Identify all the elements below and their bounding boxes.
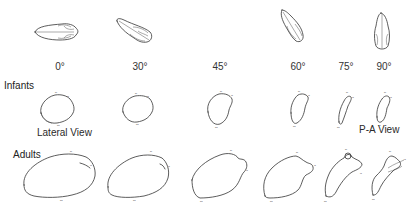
svg-text:br: br xyxy=(346,91,348,94)
svg-text:ba: ba xyxy=(60,199,63,202)
skull-figure: brlaba brlaba brlaba brlaba brlaba brlab… xyxy=(0,0,420,210)
svg-text:ba: ba xyxy=(372,198,375,201)
svg-text:ba: ba xyxy=(136,123,139,126)
svg-text:ba: ba xyxy=(215,126,218,129)
angle-label-0: 0° xyxy=(55,61,65,72)
svg-text:br: br xyxy=(150,150,152,153)
infants-row-label: Infants xyxy=(4,80,34,91)
infant-lateral-30deg: brlaba xyxy=(123,92,153,126)
svg-text:br: br xyxy=(298,90,300,93)
skull-top-90deg xyxy=(375,13,390,49)
angle-label-75: 75° xyxy=(338,61,353,72)
svg-text:br: br xyxy=(220,90,222,93)
svg-text:br: br xyxy=(389,150,391,153)
infant-lateral-45deg: brlaba xyxy=(208,90,234,129)
skull-top-60deg xyxy=(281,10,303,42)
svg-text:la: la xyxy=(246,169,249,172)
svg-text:la: la xyxy=(352,96,355,99)
adults-row-label: Adults xyxy=(13,149,41,160)
svg-text:ba: ba xyxy=(133,199,136,202)
svg-text:ba: ba xyxy=(200,200,203,203)
svg-text:ba: ba xyxy=(324,200,327,203)
svg-text:br: br xyxy=(345,148,347,151)
svg-text:ba: ba xyxy=(270,200,273,203)
svg-text:ba: ba xyxy=(337,126,340,129)
svg-text:la: la xyxy=(308,94,311,97)
infant-pa-90deg: brlaba xyxy=(377,91,393,127)
svg-text:la: la xyxy=(404,158,407,161)
infant-lateral-60deg: brlaba xyxy=(291,90,311,128)
angle-label-90: 90° xyxy=(376,61,391,72)
svg-text:br: br xyxy=(55,91,57,94)
adult-lateral-30deg: brlaba xyxy=(108,150,171,202)
svg-text:br: br xyxy=(384,91,386,94)
skull-top-0deg xyxy=(35,24,78,40)
adult-lateral-45deg: brlaba xyxy=(192,149,249,203)
svg-text:la: la xyxy=(168,165,171,168)
svg-text:la: la xyxy=(67,95,70,98)
adult-pa-90deg: brlaba xyxy=(372,150,407,201)
lateral-view-label: Lateral View xyxy=(37,127,92,138)
svg-text:la: la xyxy=(390,96,393,99)
svg-text:ba: ba xyxy=(293,125,296,128)
svg-text:la: la xyxy=(90,164,93,167)
svg-text:br: br xyxy=(70,150,72,153)
infant-lateral-75deg: brlaba xyxy=(337,91,355,129)
infant-lateral-0deg: brlaba xyxy=(41,91,74,127)
angle-label-45: 45° xyxy=(212,61,227,72)
adult-lateral-75deg: brlaba xyxy=(324,148,363,203)
svg-text:la: la xyxy=(147,95,150,98)
svg-text:br: br xyxy=(296,151,298,154)
skull-top-30deg xyxy=(117,19,152,43)
angle-label-30: 30° xyxy=(132,61,147,72)
svg-text:br: br xyxy=(230,149,232,152)
svg-text:la: la xyxy=(314,164,317,167)
adult-lateral-60deg: brlaba xyxy=(264,151,317,203)
svg-text:br: br xyxy=(135,92,137,95)
svg-text:la: la xyxy=(231,94,234,97)
svg-text:la: la xyxy=(360,172,363,175)
pa-view-label: P-A View xyxy=(359,124,399,135)
angle-label-60: 60° xyxy=(290,61,305,72)
